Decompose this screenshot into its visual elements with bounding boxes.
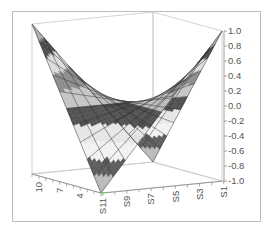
x-tick-label: S9 xyxy=(121,196,132,208)
z-tick-label: 1.0 xyxy=(228,25,241,36)
x-tick-label: S1 xyxy=(218,186,229,198)
z-tick-label: -0.8 xyxy=(228,160,244,171)
grid-line xyxy=(141,47,210,148)
x-tick-label: S7 xyxy=(145,193,156,205)
z-tick-label: -0.4 xyxy=(228,130,244,141)
y-tick-label: 7 xyxy=(54,188,65,193)
surface-chart: 1.00.80.60.40.20.0-0.2-0.4-0.6-0.8-1.0 S… xyxy=(0,0,274,233)
z-tick-label: 0.8 xyxy=(228,40,241,51)
surface-mesh xyxy=(32,24,222,193)
z-tick-label: -1.0 xyxy=(228,175,244,186)
z-tick-label: 0.0 xyxy=(228,100,241,111)
z-tick-label: 0.2 xyxy=(228,85,241,96)
axis-origin-marker xyxy=(101,193,107,194)
z-tick-label: -0.2 xyxy=(228,115,244,126)
y-axis: 4710 xyxy=(32,174,101,199)
x-axis: S11S9S7S5S3S1 xyxy=(97,181,229,214)
z-tick-label: -0.6 xyxy=(228,145,244,156)
y-tick-label: 10 xyxy=(33,182,44,193)
y-tick-label: 4 xyxy=(74,193,85,198)
z-axis: 1.00.80.60.40.20.0-0.2-0.4-0.6-0.8-1.0 xyxy=(224,25,244,186)
z-tick-label: 0.4 xyxy=(228,70,241,81)
z-tick-label: 0.6 xyxy=(228,55,241,66)
x-tick-label: S5 xyxy=(170,191,181,203)
x-tick-label: S11 xyxy=(97,198,108,214)
x-tick-label: S3 xyxy=(194,188,205,200)
